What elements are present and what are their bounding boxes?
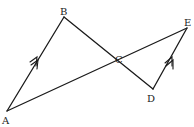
geometry-diagram: B A C D E bbox=[0, 0, 194, 127]
segment-ae bbox=[7, 28, 187, 111]
label-e: E bbox=[184, 17, 191, 28]
label-c: C bbox=[115, 54, 123, 65]
label-d: D bbox=[147, 93, 155, 104]
label-b: B bbox=[60, 6, 67, 17]
segment-ab bbox=[7, 17, 64, 111]
parallel-arrow-icon-de bbox=[165, 57, 173, 69]
label-a: A bbox=[1, 115, 10, 126]
